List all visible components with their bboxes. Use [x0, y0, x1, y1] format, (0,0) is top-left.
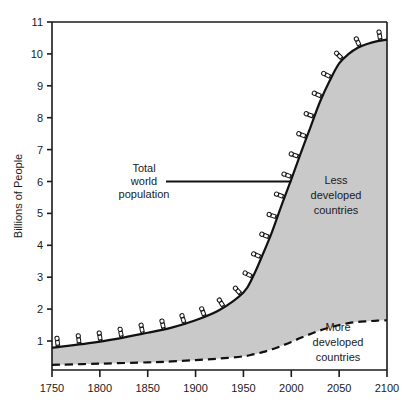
population-growth-chart: 1234567891011 17501800185019001950200020…: [0, 0, 413, 414]
y-tick-label: 5: [37, 207, 43, 219]
x-tick-label: 2050: [327, 382, 351, 394]
x-tick-label: 1750: [40, 382, 64, 394]
annotation-line-3: population: [119, 188, 170, 200]
annotation-line-2: developed: [313, 336, 364, 348]
x-tick-label: 2000: [279, 382, 303, 394]
annotation-line-3: countries: [314, 204, 359, 216]
annotation-line-1: More: [325, 321, 350, 333]
y-tick-label: 3: [37, 271, 43, 283]
x-tick-label: 1900: [183, 382, 207, 394]
annotation-line-2: world: [130, 175, 157, 187]
y-tick-label: 7: [37, 144, 43, 156]
y-tick-label: 8: [37, 112, 43, 124]
y-tick-label: 9: [37, 80, 43, 92]
chart-svg: 1234567891011 17501800185019001950200020…: [0, 0, 413, 414]
y-tick-label: 2: [37, 303, 43, 315]
x-tick-label: 1950: [231, 382, 255, 394]
x-tick-label: 1850: [135, 382, 159, 394]
y-tick-label: 4: [37, 239, 43, 251]
annotation-line-3: countries: [316, 351, 361, 363]
y-tick-label: 6: [37, 176, 43, 188]
annotation-line-1: Less: [324, 174, 348, 186]
annotation-line-2: developed: [311, 189, 362, 201]
y-tick-label: 11: [32, 16, 43, 28]
y-tick-label: 1: [37, 335, 43, 347]
y-tick-label: 10: [31, 48, 43, 60]
annotation-line-1: Total: [132, 162, 155, 174]
x-tick-label: 1800: [88, 382, 112, 394]
x-tick-label: 2100: [375, 382, 399, 394]
y-axis-title: Billions of People: [12, 154, 24, 238]
